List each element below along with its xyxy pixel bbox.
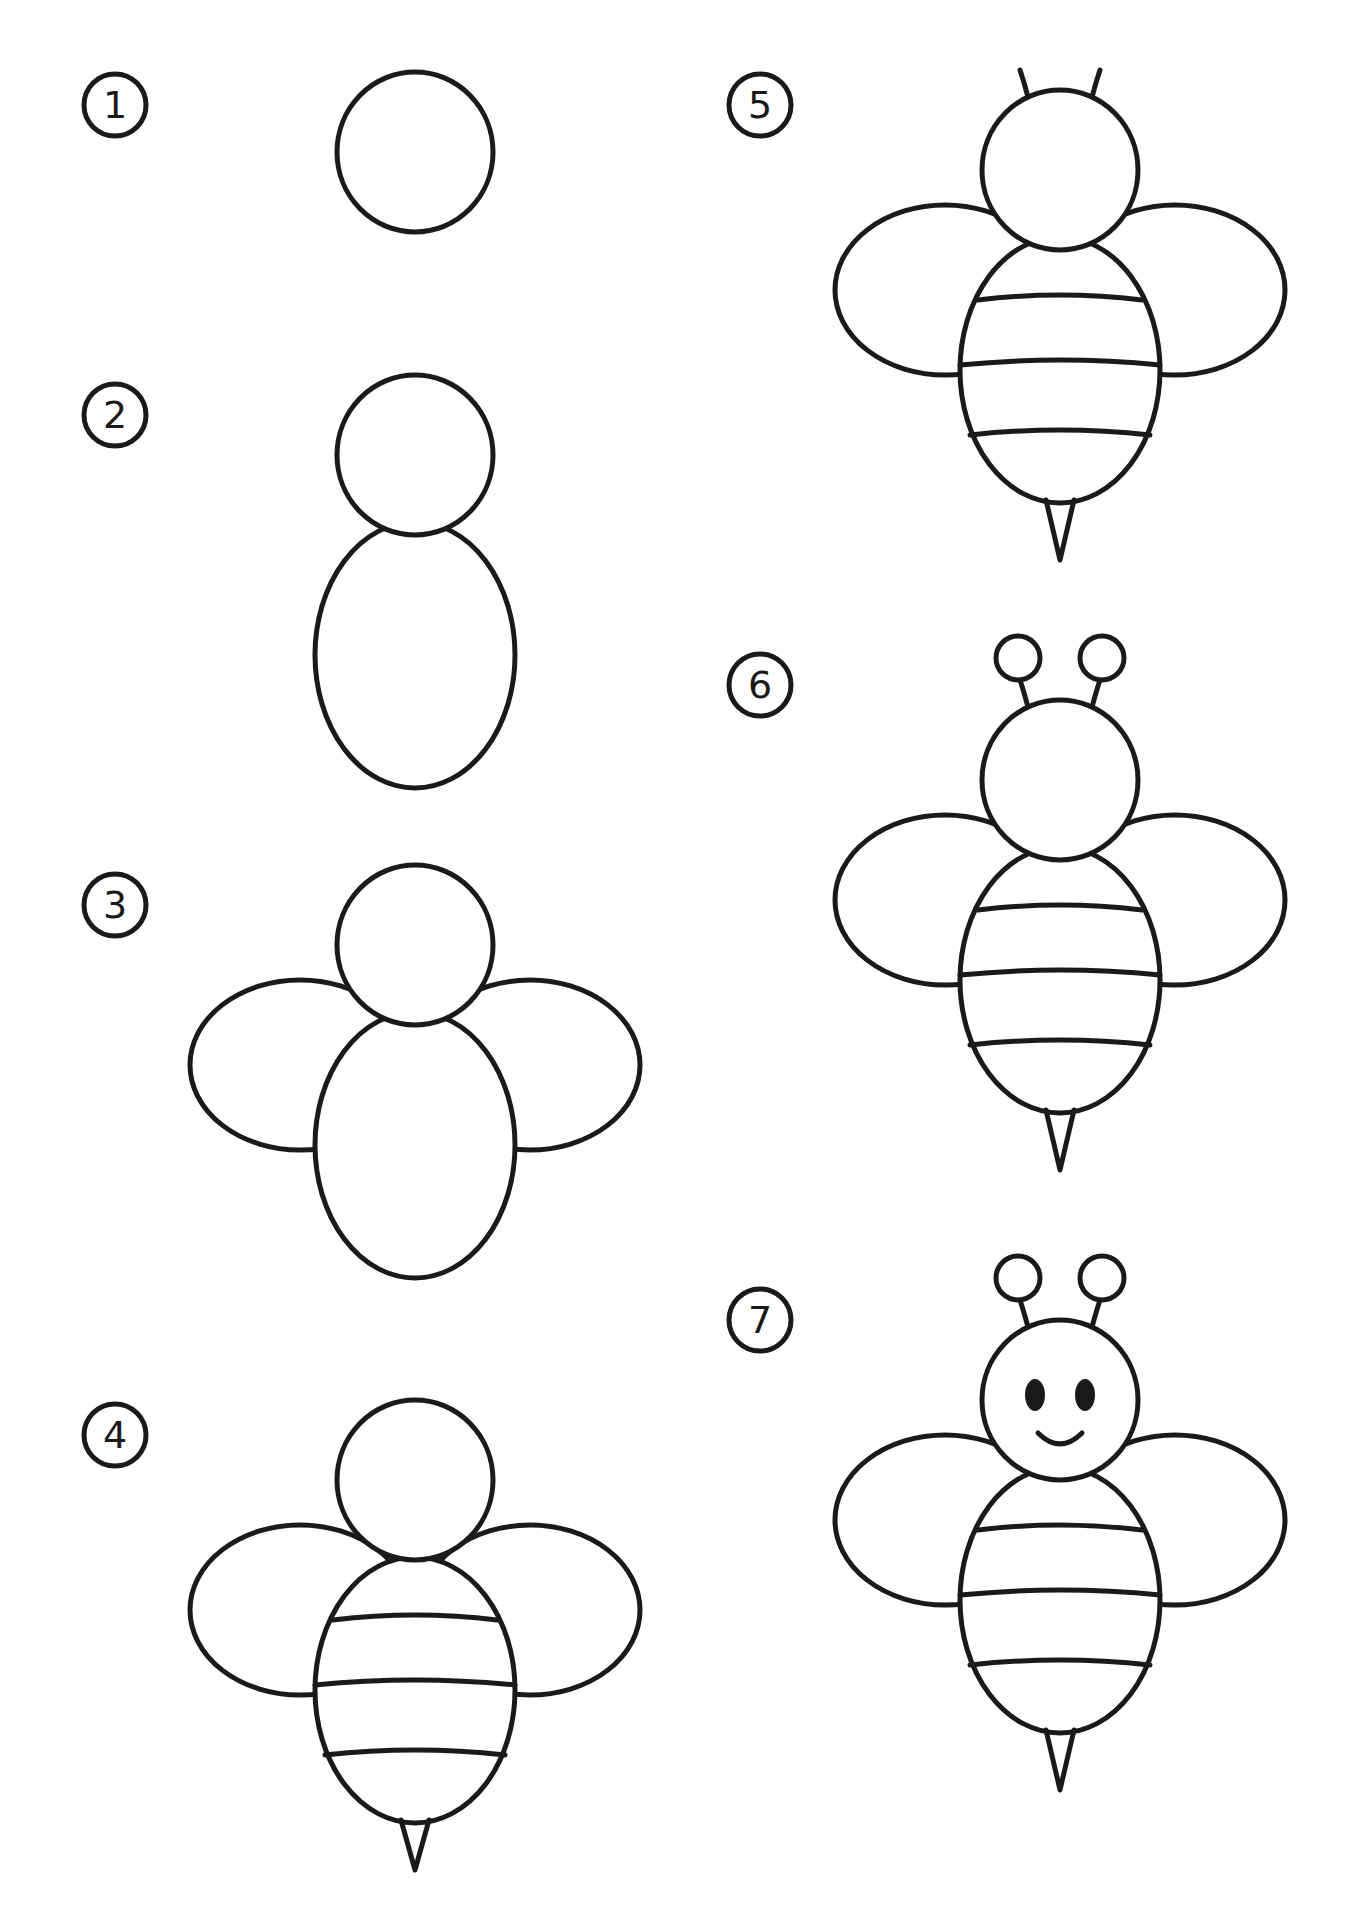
bee-complete: [835, 1256, 1285, 1790]
step-number: 6: [748, 663, 772, 707]
step-5: 5: [729, 70, 1285, 560]
step-3: 3: [84, 865, 640, 1278]
step-6: 6: [729, 636, 1285, 1170]
step-number: 7: [748, 1298, 772, 1342]
bee-partial: [835, 636, 1285, 1170]
step-number-badge: 6: [729, 654, 791, 716]
step-number: 1: [103, 83, 127, 127]
bee-partial: [835, 70, 1285, 560]
step-number-badge: 7: [729, 1289, 791, 1351]
step-1: 1: [84, 72, 493, 232]
step-7: 7: [729, 1256, 1285, 1790]
bee-partial: [190, 1400, 640, 1870]
step-number-badge: 3: [84, 874, 146, 936]
step-number-badge: 5: [729, 74, 791, 136]
step-number: 4: [103, 1413, 127, 1457]
step-number: 2: [103, 393, 127, 437]
step-number-badge: 1: [84, 74, 146, 136]
eye-left: [1025, 1379, 1045, 1411]
step-number-badge: 2: [84, 384, 146, 446]
step-number: 3: [103, 883, 127, 927]
step-4: 4: [84, 1400, 640, 1870]
step-number-badge: 4: [84, 1404, 146, 1466]
head-circle: [337, 72, 493, 232]
drawing-guide: 1 2 3 4: [0, 0, 1365, 1921]
bee-partial: [190, 865, 640, 1278]
bee-partial: [315, 375, 515, 788]
step-number: 5: [748, 83, 772, 127]
eye-right: [1075, 1379, 1095, 1411]
step-2: 2: [84, 375, 515, 788]
